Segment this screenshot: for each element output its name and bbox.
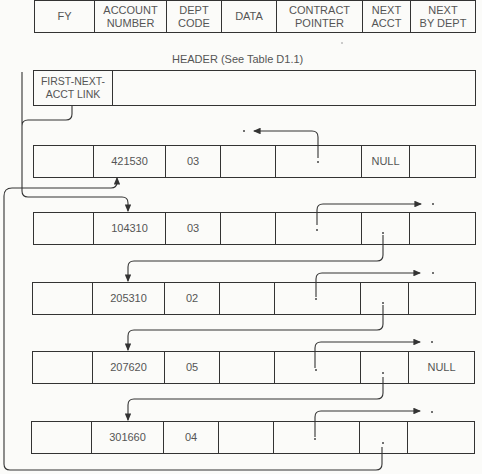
pointer-dot	[314, 438, 316, 440]
contract-arrow-1	[254, 131, 318, 158]
pointer-links	[0, 0, 482, 474]
next-acct-loop-arrow	[4, 178, 382, 470]
pointer-dot	[382, 372, 384, 374]
next-acct-arrow-4	[128, 377, 383, 420]
contract-arrow-3	[316, 273, 420, 297]
pointer-dot	[382, 302, 384, 304]
contract-arrow-4	[315, 342, 420, 368]
pointer-dot	[243, 130, 245, 132]
pointer-dot	[317, 161, 319, 163]
first-link-arrow	[22, 72, 128, 211]
pointer-dot	[315, 369, 317, 371]
pointer-dot	[432, 203, 434, 205]
contract-arrow-2	[317, 204, 421, 225]
pointer-dot	[316, 229, 318, 231]
pointer-dot	[315, 298, 317, 300]
next-acct-arrow-3	[128, 305, 383, 350]
pointer-dot	[432, 272, 434, 274]
pointer-dot	[382, 442, 384, 444]
next-acct-arrow-2	[128, 235, 383, 281]
pointer-dot	[431, 411, 433, 413]
contract-arrow-5	[315, 411, 420, 437]
pointer-dot	[431, 341, 433, 343]
stray-mark	[341, 42, 343, 44]
pointer-dot	[382, 232, 384, 234]
